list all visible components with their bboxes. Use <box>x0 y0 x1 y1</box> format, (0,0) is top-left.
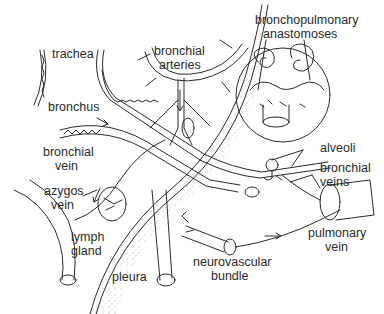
label-bronchial-vein-line1: bronchial <box>43 145 94 159</box>
label-azygos-vein-line2: vein <box>51 198 74 212</box>
label-lymph-gland-line1: lymph <box>71 230 104 244</box>
label-trachea: trachea <box>52 47 94 61</box>
label-neurovascular-bundle-line2: bundle <box>211 269 249 283</box>
neurovascular-bundle-shape <box>182 212 236 255</box>
label-bronchial-arteries-line2: arteries <box>159 58 201 72</box>
label-pulmonary-vein-line2: vein <box>325 240 348 254</box>
label-bronchial-arteries-line1: bronchial <box>154 44 205 58</box>
label-neurovascular-bundle-line1: neurovascular <box>193 255 272 269</box>
azygos-vein-shape <box>14 140 165 285</box>
label-alveoli: alveoli <box>320 141 355 155</box>
label-bronchus: bronchus <box>48 100 99 114</box>
label-pulmonary-vein-line1: pulmonary <box>308 226 366 240</box>
label-lymph-gland-line2: gland <box>71 244 102 258</box>
trachea-shape <box>34 50 46 106</box>
label-bronchial-vein-line2: vein <box>55 159 78 173</box>
label-bronchopulmonary-line1: bronchopulmonary <box>255 13 359 27</box>
label-bronchopulmonary-line2: anastomoses <box>263 27 337 41</box>
label-bronchial-veins-line1: bronchial <box>320 161 371 175</box>
label-azygos-vein-line1: azygos <box>44 184 84 198</box>
label-pleura: pleura <box>112 270 147 284</box>
label-bronchial-veins-line2: veins <box>320 175 349 189</box>
